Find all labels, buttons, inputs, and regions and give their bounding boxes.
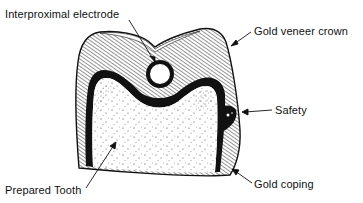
label-prepared-tooth: Prepared Tooth xyxy=(5,184,81,196)
label-gold-coping: Gold coping xyxy=(254,178,314,190)
label-gold-veneer-crown: Gold veneer crown xyxy=(254,25,348,37)
label-interproximal-electrode: Interproximal electrode xyxy=(5,8,119,20)
label-safety: Safety xyxy=(275,104,307,116)
